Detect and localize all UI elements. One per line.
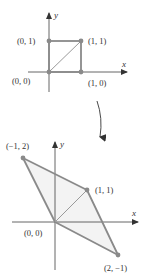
bottom-figure: x y (−1, 2) (1, 1) (0, 0) (2, −1) bbox=[6, 139, 138, 273]
label-0-1: (0, 1) bbox=[17, 36, 36, 46]
label-image-1-1: (1, 1) bbox=[95, 185, 114, 195]
unit-square-diagonal bbox=[49, 41, 81, 72]
label-1-1: (1, 1) bbox=[88, 36, 107, 46]
point-1-1 bbox=[79, 39, 84, 44]
top-x-axis-label: x bbox=[121, 59, 126, 69]
bottom-y-axis-label: y bbox=[59, 139, 64, 149]
bottom-x-axis-label: x bbox=[131, 208, 136, 218]
point-1-0 bbox=[79, 70, 84, 75]
curved-arrow-down-icon bbox=[97, 101, 101, 137]
top-y-axis-label: y bbox=[53, 10, 58, 20]
label-origin-bottom: (0, 0) bbox=[24, 228, 43, 238]
point-neg1-2 bbox=[21, 156, 26, 161]
label-0-0: (0, 0) bbox=[12, 76, 31, 86]
point-2-neg1 bbox=[116, 253, 121, 258]
point-image-1-1 bbox=[85, 188, 90, 193]
point-0-1 bbox=[47, 39, 52, 44]
linear-transformation-diagram: x y (0, 1) (1, 1) (0, 0) (1, 0) x y (−1,… bbox=[0, 0, 148, 275]
label-1-0: (1, 0) bbox=[88, 78, 107, 88]
label-neg1-2: (−1, 2) bbox=[6, 141, 29, 151]
top-figure: x y (0, 1) (1, 1) (0, 0) (1, 0) bbox=[12, 10, 127, 92]
point-0-0 bbox=[47, 70, 52, 75]
label-2-neg1: (2, −1) bbox=[104, 263, 127, 273]
